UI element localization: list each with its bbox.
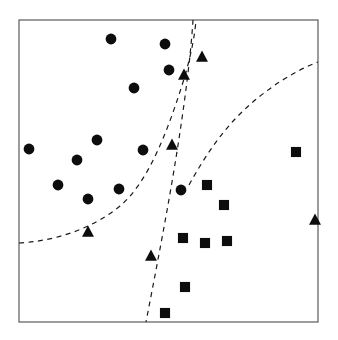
marker-circle [176,185,187,196]
marker-square [202,180,212,190]
marker-circle [92,135,103,146]
marker-circle [106,34,117,45]
marker-circle [114,184,125,195]
marker-circle [83,194,94,205]
marker-circle [53,180,64,191]
marker-circle [164,65,175,76]
marker-square [219,200,229,210]
marker-square [178,233,188,243]
marker-circle [72,155,83,166]
marker-circle [24,144,35,155]
marker-circle [160,39,171,50]
marker-square [160,308,170,318]
marker-circle [138,145,149,156]
scatter-plot-figure [0,0,338,340]
marker-square [200,238,210,248]
plot-canvas [0,0,338,340]
marker-circle [129,83,140,94]
marker-square [180,282,190,292]
marker-square [291,147,301,157]
marker-square [222,236,232,246]
